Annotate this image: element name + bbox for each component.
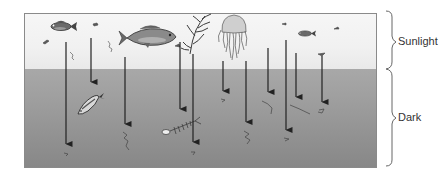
dark-brace-icon xyxy=(386,69,396,166)
marine-snow-diagram: Sunlight Dark xyxy=(0,0,440,181)
sunlight-brace-icon xyxy=(386,11,396,69)
sunlight-zone-label: Sunlight xyxy=(398,35,438,47)
dark-zone-label: Dark xyxy=(398,111,421,123)
zone-braces xyxy=(0,0,440,181)
